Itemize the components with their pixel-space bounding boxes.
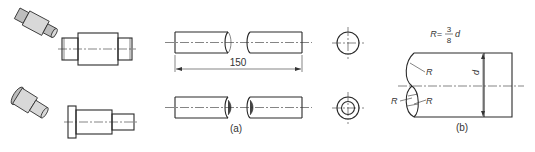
radius-label-left: R <box>391 96 398 106</box>
panel-b: R= 3 8 d d R R R (b) <box>391 25 524 133</box>
end-view-tube <box>332 92 364 124</box>
dimension-150: 150 <box>175 55 302 72</box>
caption-b: (b) <box>456 122 468 133</box>
tube-break <box>165 97 312 118</box>
formula-numerator: 3 <box>447 25 452 34</box>
technical-drawing: 150 (a) R= 3 8 d <box>0 0 535 152</box>
formula-variable: d <box>455 29 461 39</box>
panel-a: 150 (a) <box>165 27 364 134</box>
radius-label-top: R <box>426 67 433 77</box>
solid-bar-break <box>165 32 312 53</box>
dimension-label: 150 <box>230 57 247 68</box>
pictorial-stepped-pin-bottom <box>9 85 138 138</box>
formula-denominator: 8 <box>447 36 452 45</box>
radius-label-right: R <box>426 96 433 106</box>
caption-a: (a) <box>230 123 242 134</box>
formula-lhs: R= <box>430 29 442 39</box>
pictorial-shaft-top <box>13 6 136 65</box>
end-view-solid <box>332 27 364 59</box>
diameter-label: d <box>471 69 481 75</box>
